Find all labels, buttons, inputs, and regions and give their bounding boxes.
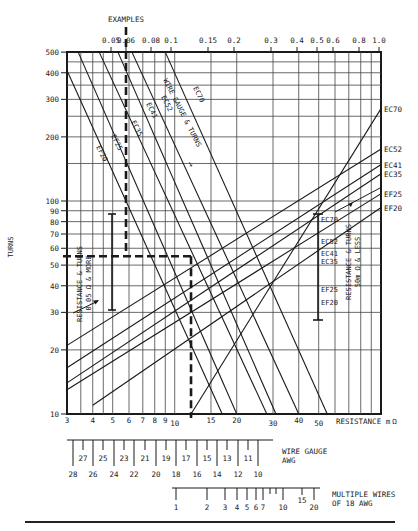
awg-tick-label: 26 bbox=[88, 470, 98, 479]
x-tick-label: 50 bbox=[314, 419, 324, 428]
top-axis: 0.050.060.080.10.150.20.30.40.50.60.81.0 bbox=[102, 36, 386, 52]
awg-tick-label: 19 bbox=[161, 454, 170, 463]
rt-left-label-2: 0.05 Ω & MORE bbox=[85, 256, 93, 311]
label-ec35-falling: EC35 bbox=[129, 119, 144, 138]
awg-tick-label: 28 bbox=[68, 470, 78, 479]
line-ec41-resistance bbox=[67, 165, 381, 368]
y-tick-label: 60 bbox=[50, 244, 60, 253]
awg-label-1: WIRE GAUGE bbox=[282, 447, 328, 456]
wire-gauge-awg-scale: 28262422201816141210272523211917151311 bbox=[67, 440, 273, 479]
x-tick-label: 7 bbox=[141, 416, 146, 425]
y-tick-label: 10 bbox=[50, 410, 60, 419]
x-tick-label: 4 bbox=[90, 416, 95, 425]
label-ec35-right: EC35 bbox=[384, 170, 402, 179]
y-axis: 102030405060708090100200300400500 bbox=[45, 48, 67, 419]
awg-label-2: AWG bbox=[282, 456, 296, 465]
mw-tick-label: 2 bbox=[205, 503, 210, 512]
x-tick-label: 20 bbox=[232, 416, 242, 425]
awg-tick-label: 15 bbox=[202, 454, 211, 463]
awg-tick-label: 12 bbox=[233, 470, 242, 479]
label-ec41-right: EC41 bbox=[384, 161, 402, 170]
x-axis-title: RESISTANCE mΩ bbox=[336, 417, 397, 426]
mw-tick-label: 20 bbox=[309, 503, 319, 512]
top-tick-label: 0.3 bbox=[264, 36, 278, 45]
x-tick-label: 9 bbox=[163, 416, 168, 425]
y-axis-title: TURNS bbox=[7, 236, 15, 257]
wire-gauge-turns-lines: EF20EF25EC35EC41EC52EC70 bbox=[67, 52, 327, 414]
awg-tick-label: 17 bbox=[181, 454, 190, 463]
rt-left-label-1: RESISTANCE & TURNS bbox=[76, 246, 84, 322]
x-tick-label: 3 bbox=[65, 416, 70, 425]
mw-tick-label: 5 bbox=[245, 503, 250, 512]
label-ef25-right: EF25 bbox=[384, 190, 402, 199]
line-ec52-resistance bbox=[67, 149, 381, 345]
line-ec35-resistance bbox=[67, 174, 381, 383]
top-tick-label: 0.08 bbox=[142, 36, 161, 45]
examples-label: EXAMPLES bbox=[108, 15, 145, 24]
awg-tick-label: 13 bbox=[222, 454, 231, 463]
line-ec41-wire-gauge bbox=[118, 52, 276, 414]
awg-tick-label: 16 bbox=[192, 470, 202, 479]
y-tick-label: 500 bbox=[45, 48, 59, 57]
nomograph-chart: 0.050.060.080.10.150.20.30.40.50.60.81.0… bbox=[0, 0, 418, 531]
bracket-label-ef25: EF25 bbox=[321, 286, 338, 294]
y-tick-label: 50 bbox=[50, 261, 60, 270]
multiple-wires-scale: 1234567101520 bbox=[172, 488, 320, 512]
y-tick-label: 100 bbox=[45, 197, 59, 206]
top-tick-label: 0.4 bbox=[290, 36, 304, 45]
x-tick-label: 8 bbox=[152, 416, 157, 425]
mw-tick-label: 4 bbox=[235, 503, 240, 512]
bracket-label-ec70: EC70 bbox=[321, 216, 338, 224]
awg-tick-label: 20 bbox=[151, 470, 161, 479]
mw-tick-label: 1 bbox=[174, 503, 179, 512]
top-tick-label: 0.15 bbox=[199, 36, 217, 45]
rt-right-label-2: 50m Ω & LESS bbox=[354, 237, 362, 288]
x-axis-bottom: 3456789101520304050 bbox=[65, 416, 324, 428]
multiple-wires-label-1: MULTIPLE WIRES bbox=[332, 490, 396, 499]
top-tick-label: 0.6 bbox=[326, 36, 340, 45]
x-tick-label: 15 bbox=[206, 416, 215, 425]
y-tick-label: 80 bbox=[50, 218, 60, 227]
awg-tick-label: 23 bbox=[119, 454, 128, 463]
mw-tick-label: 10 bbox=[278, 503, 288, 512]
awg-tick-label: 10 bbox=[253, 470, 263, 479]
top-tick-label: 0.8 bbox=[352, 36, 366, 45]
mw-tick-label: 15 bbox=[297, 496, 306, 505]
line-ef20-wire-gauge bbox=[67, 70, 222, 414]
awg-tick-label: 18 bbox=[171, 470, 181, 479]
multiple-wires-label-2: OF 18 AWG bbox=[332, 499, 373, 508]
awg-tick-label: 14 bbox=[212, 470, 222, 479]
awg-tick-label: 27 bbox=[78, 454, 87, 463]
x-tick-label: 6 bbox=[127, 416, 132, 425]
mw-tick-label: 7 bbox=[261, 503, 266, 512]
label-ef25-falling: EF25 bbox=[109, 133, 124, 152]
bracket-label-ec35: EC35 bbox=[321, 258, 338, 266]
y-tick-label: 20 bbox=[50, 346, 60, 355]
awg-tick-label: 24 bbox=[109, 470, 119, 479]
top-tick-label: 0.2 bbox=[227, 36, 241, 45]
top-tick-label: 1.0 bbox=[372, 36, 386, 45]
rt-right-label-1: RESISTANCE & TURNS bbox=[345, 224, 353, 300]
mw-tick-label: 3 bbox=[223, 503, 228, 512]
x-tick-label: 10 bbox=[170, 419, 180, 428]
label-ef20-right: EF20 bbox=[384, 204, 403, 213]
awg-tick-label: 21 bbox=[140, 454, 149, 463]
awg-tick-label: 22 bbox=[129, 470, 138, 479]
label-ef20-falling: EF20 bbox=[94, 144, 109, 163]
mw-tick-label: 6 bbox=[254, 503, 259, 512]
wire-gauge-arrow: → bbox=[185, 159, 197, 169]
left-arrow-head-icon bbox=[93, 300, 99, 305]
top-tick-label: 0.1 bbox=[164, 36, 178, 45]
figure-caption bbox=[25, 521, 395, 531]
awg-tick-label: 25 bbox=[98, 454, 107, 463]
x-tick-label: 30 bbox=[268, 419, 278, 428]
label-ec70-falling: EC70 bbox=[191, 85, 206, 104]
bracket-label-ec52: EC52 bbox=[321, 238, 338, 246]
y-tick-label: 40 bbox=[50, 282, 60, 291]
y-tick-label: 400 bbox=[45, 69, 59, 78]
bracket-label-ec41: EC41 bbox=[321, 250, 338, 258]
x-tick-label: 5 bbox=[110, 416, 115, 425]
awg-tick-label: 11 bbox=[243, 454, 252, 463]
label-ec70-right: EC70 bbox=[384, 105, 403, 114]
y-tick-label: 300 bbox=[45, 95, 59, 104]
